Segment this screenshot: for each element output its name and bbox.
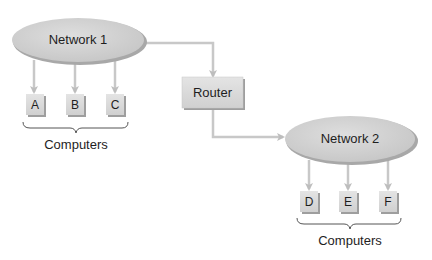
- computers-group-1-label: Computers: [26, 137, 126, 152]
- brace-group-1: [23, 122, 128, 133]
- computer-b-label: B: [66, 98, 84, 112]
- computer-d-label: D: [300, 195, 318, 209]
- brace-group-2: [297, 218, 401, 229]
- computer-e-label: E: [339, 195, 357, 209]
- network2-label: Network 2: [300, 131, 400, 146]
- network1-label: Network 1: [28, 32, 128, 47]
- computer-a-label: A: [26, 98, 44, 112]
- computer-c-label: C: [106, 98, 124, 112]
- edge-network1-router: [140, 43, 213, 76]
- router-label: Router: [182, 85, 243, 100]
- computers-group-2-label: Computers: [300, 233, 400, 248]
- edge-router-network2: [213, 108, 283, 137]
- computer-f-label: F: [379, 195, 397, 209]
